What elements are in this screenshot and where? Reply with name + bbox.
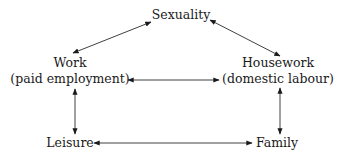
node-work: Work (paid employment) xyxy=(10,55,130,87)
node-family-label: Family xyxy=(254,135,300,151)
edge-sexuality-housework xyxy=(210,20,280,56)
relationship-diagram: Sexuality Work (paid employment) Housewo… xyxy=(0,0,341,163)
node-housework: Housework (domestic labour) xyxy=(222,55,334,87)
node-family: Family xyxy=(254,135,300,151)
node-work-sublabel: (paid employment) xyxy=(10,71,130,87)
node-leisure-label: Leisure xyxy=(46,135,94,151)
node-leisure: Leisure xyxy=(46,135,94,151)
node-sexuality: Sexuality xyxy=(150,7,212,23)
node-housework-label: Housework xyxy=(222,55,334,71)
edge-work-sexuality xyxy=(73,22,151,53)
node-work-label: Work xyxy=(10,55,130,71)
node-housework-sublabel: (domestic labour) xyxy=(222,71,334,87)
node-sexuality-label: Sexuality xyxy=(150,7,212,23)
